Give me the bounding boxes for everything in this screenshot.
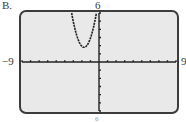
parabola-curve: [72, 13, 97, 47]
axes: [22, 13, 176, 111]
graph-plot: [0, 0, 186, 122]
